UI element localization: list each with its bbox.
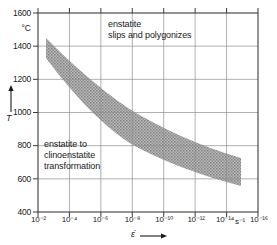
x-tick-label-6: 10⁻¹² (184, 215, 208, 224)
annotation-lower-line-1: enstatite to (44, 139, 87, 151)
y-axis-label: T (6, 113, 12, 123)
x-tick-label-8: 10⁻¹⁶ (246, 215, 272, 224)
left-tick-marks (33, 13, 38, 212)
top-tick-marks (38, 8, 258, 13)
y-tick-label-600: 600 (6, 174, 31, 184)
x-axis-label: ε̇ (131, 229, 135, 239)
y-tick-label-1600: 1600 (6, 8, 31, 18)
x-axis-arrow (140, 233, 167, 238)
annotation-lower-line-3: transformation (44, 161, 100, 173)
y-tick-label-1200: 1200 (6, 74, 31, 84)
chart-figure: 1600 °C 1400 1200 1000 800 600 400 T 10⁻… (0, 0, 277, 245)
x-tick-label-7: 10⁻¹⁴ (213, 215, 237, 224)
x-axis-unit: s⁻¹ (235, 217, 245, 226)
annotation-lower-line-2: clinoenstatite (44, 150, 95, 162)
annotation-upper-line-1: enstatite (108, 19, 141, 31)
x-tick-label-2: 10⁻⁴ (59, 215, 80, 224)
y-axis-unit: °C (6, 23, 31, 33)
x-tick-label-3: 10⁻⁶ (90, 215, 111, 224)
x-tick-label-5: 10⁻¹⁰ (152, 215, 176, 224)
x-tick-label-1: 10⁻² (28, 215, 49, 224)
y-tick-label-1400: 1400 (6, 41, 31, 51)
x-tick-label-4: 10⁻⁸ (122, 215, 143, 224)
y-tick-label-800: 800 (6, 140, 31, 150)
annotation-upper-line-2: slips and polygonizes (108, 30, 191, 42)
